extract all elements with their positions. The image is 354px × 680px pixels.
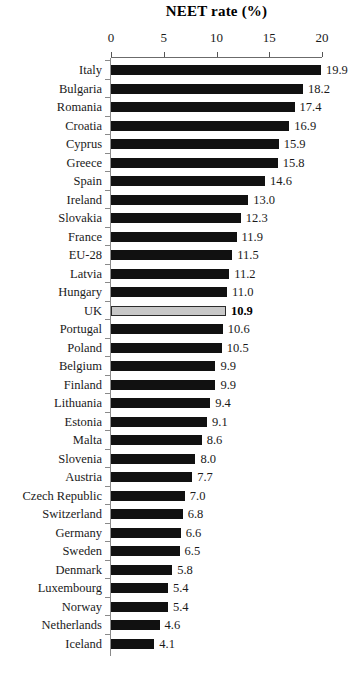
category-label: Sweden [62, 543, 102, 559]
bar [111, 583, 168, 593]
bar-value-label: 11.2 [234, 266, 255, 282]
bar-row: Austria7.7 [0, 467, 354, 487]
y-tick-mark [105, 264, 110, 265]
category-label: Iceland [65, 636, 102, 652]
bar [111, 65, 321, 75]
bar-row: Slovakia12.3 [0, 208, 354, 228]
bar [111, 158, 278, 168]
bar-row: Luxembourg5.4 [0, 578, 354, 598]
bar-row: Norway5.4 [0, 597, 354, 617]
bar [111, 343, 222, 353]
bar-row: Hungary11.0 [0, 282, 354, 302]
y-tick-mark [105, 208, 110, 209]
y-tick-mark [105, 504, 110, 505]
y-tick-mark [105, 486, 110, 487]
bar-row: Sweden6.5 [0, 541, 354, 561]
bar [111, 269, 229, 279]
bar [111, 454, 195, 464]
category-label: Germany [55, 525, 102, 541]
bar-value-label: 12.3 [246, 210, 268, 226]
bar-row: Poland10.5 [0, 338, 354, 358]
bar-value-label: 5.4 [173, 599, 189, 615]
bar-value-label: 13.0 [253, 192, 275, 208]
bar-row: Spain14.6 [0, 171, 354, 191]
category-label: Finland [64, 377, 102, 393]
bar-value-label: 10.9 [231, 303, 253, 319]
bar-highlighted [111, 306, 226, 316]
x-tick-label: 15 [263, 30, 276, 46]
bar-value-label: 9.9 [220, 358, 236, 374]
y-tick-mark [105, 634, 110, 635]
bar-value-label: 11.0 [232, 284, 253, 300]
bar-row: Lithuania9.4 [0, 393, 354, 413]
y-tick-mark [105, 541, 110, 542]
category-label: Norway [62, 599, 102, 615]
bar-value-label: 4.1 [159, 636, 175, 652]
bar-value-label: 11.5 [237, 247, 258, 263]
category-label: Luxembourg [38, 580, 102, 596]
category-label: Austria [65, 469, 102, 485]
category-label: EU-28 [69, 247, 102, 263]
bar [111, 639, 154, 649]
x-tick-mark [111, 52, 112, 57]
bar-value-label: 10.5 [227, 340, 249, 356]
bar-row: Belgium9.9 [0, 356, 354, 376]
category-label: Slovakia [58, 210, 102, 226]
bar-row: Malta8.6 [0, 430, 354, 450]
y-tick-mark [105, 523, 110, 524]
bar [111, 213, 241, 223]
bar [111, 121, 289, 131]
bar-row: Italy19.9 [0, 60, 354, 80]
bar-row: UK10.9 [0, 301, 354, 321]
bar [111, 195, 248, 205]
x-tick-label: 0 [108, 30, 115, 46]
category-label: Malta [73, 432, 102, 448]
bar-value-label: 19.9 [326, 62, 348, 78]
category-label: Slovenia [58, 451, 102, 467]
y-tick-mark [105, 301, 110, 302]
plot-area: Italy19.9Bulgaria18.2Romania17.4Croatia1… [0, 58, 354, 658]
bar [111, 102, 295, 112]
x-axis-top: 05101520 [0, 0, 354, 60]
y-tick-mark [105, 97, 110, 98]
y-tick-mark [105, 60, 110, 61]
bar-row: Denmark5.8 [0, 560, 354, 580]
y-tick-mark [105, 430, 110, 431]
y-tick-mark [105, 116, 110, 117]
y-tick-mark [105, 578, 110, 579]
bar [111, 602, 168, 612]
bar-value-label: 5.8 [177, 562, 193, 578]
bar-row: Slovenia8.0 [0, 449, 354, 469]
y-tick-mark [105, 412, 110, 413]
category-label: Greece [67, 155, 102, 171]
category-label: Bulgaria [59, 81, 102, 97]
y-tick-mark [105, 560, 110, 561]
y-tick-mark [105, 375, 110, 376]
bar-value-label: 17.4 [300, 99, 322, 115]
bar-value-label: 8.6 [207, 432, 223, 448]
y-tick-mark [105, 615, 110, 616]
bar-value-label: 7.7 [197, 469, 213, 485]
category-label: Lithuania [54, 395, 102, 411]
category-label: Ireland [67, 192, 102, 208]
bar [111, 398, 210, 408]
y-tick-mark [105, 282, 110, 283]
category-label: Czech Republic [23, 488, 103, 504]
bar-value-label: 15.9 [284, 136, 306, 152]
bar-value-label: 18.2 [308, 81, 330, 97]
bar-value-label: 6.8 [188, 506, 204, 522]
category-label: Latvia [70, 266, 102, 282]
y-tick-mark [105, 393, 110, 394]
x-tick-label: 20 [316, 30, 329, 46]
category-label: Netherlands [42, 617, 102, 633]
y-tick-mark [105, 227, 110, 228]
category-label: Romania [57, 99, 102, 115]
bar [111, 620, 160, 630]
bar-value-label: 11.9 [242, 229, 263, 245]
bar-row: Portugal10.6 [0, 319, 354, 339]
y-tick-mark [105, 449, 110, 450]
category-label: Cyprus [66, 136, 102, 152]
bar [111, 435, 202, 445]
bar [111, 287, 227, 297]
bar [111, 417, 207, 427]
